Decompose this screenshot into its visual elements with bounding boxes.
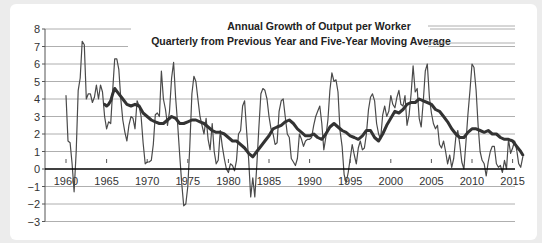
y-tick-label: 5 — [34, 76, 40, 88]
y-tick-label: 7 — [34, 41, 40, 53]
line-chart: 876543210−1−2−3 196019651970197519801985… — [0, 0, 542, 243]
x-tick-label: 2005 — [419, 175, 443, 187]
y-tick-label: 8 — [34, 23, 40, 35]
x-tick-label: 2015 — [500, 175, 524, 187]
y-tick-label: 4 — [34, 93, 40, 105]
x-tick-label: 1990 — [297, 175, 321, 187]
x-tick-label: 1965 — [94, 175, 118, 187]
y-tick-label: 1 — [34, 146, 40, 158]
chart-subtitle: Quarterly from Previous Year and Five-Ye… — [151, 35, 451, 47]
x-tick-label: 1995 — [338, 175, 362, 187]
y-tick-label: 3 — [34, 111, 40, 123]
y-tick-label: 0 — [34, 163, 40, 175]
chart-title: Annual Growth of Output per Worker — [227, 20, 411, 32]
x-tick-label: 1970 — [135, 175, 159, 187]
y-tick-label: 6 — [34, 58, 40, 70]
y-tick-label: −2 — [27, 198, 40, 210]
x-axis: 1960196519701975198019851990199520002005… — [54, 159, 525, 187]
x-tick-label: 1985 — [257, 175, 281, 187]
chart-title-block: Annual Growth of Output per Worker Quart… — [151, 20, 515, 47]
y-tick-label: 2 — [34, 128, 40, 140]
x-tick-label: 2010 — [460, 175, 484, 187]
y-tick-label: −3 — [27, 216, 40, 228]
y-tick-label: −1 — [27, 181, 40, 193]
x-tick-label: 1980 — [216, 175, 240, 187]
x-tick-label: 2000 — [379, 175, 403, 187]
y-axis: 876543210−1−2−3 — [27, 23, 45, 228]
